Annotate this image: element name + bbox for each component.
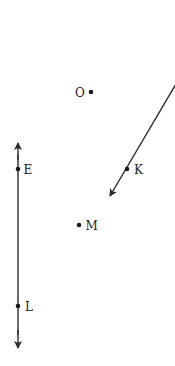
point-m: M — [77, 219, 98, 233]
point-e-label: E — [24, 163, 33, 177]
point-l-dot — [16, 304, 21, 309]
point-o-dot — [89, 90, 94, 95]
diagonal-ray — [110, 84, 175, 196]
point-o-label: O — [75, 86, 85, 100]
point-k-label: K — [134, 163, 144, 177]
point-k-dot — [125, 167, 130, 172]
point-o: O — [75, 86, 93, 100]
point-e-dot — [16, 167, 21, 172]
point-m-dot — [77, 223, 82, 228]
point-m-label: M — [86, 219, 98, 233]
point-l-label: L — [25, 300, 33, 314]
geometry-diagram: O E K M L — [0, 0, 175, 366]
